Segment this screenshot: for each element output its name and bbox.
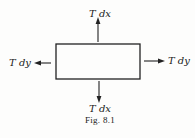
diagram-canvas: T dx T dx T dy T dy Fig. 8.1	[0, 0, 195, 138]
arrow-up-icon	[96, 17, 101, 42]
arrow-down-icon	[97, 81, 102, 103]
force-label-right: T dy	[168, 55, 190, 66]
figure-caption: Fig. 8.1	[85, 115, 115, 125]
figure-8-1: T dx T dx T dy T dy Fig. 8.1	[0, 0, 195, 138]
arrow-left-icon	[34, 61, 51, 66]
force-label-top: T dx	[89, 8, 111, 19]
arrow-right-icon	[144, 59, 165, 64]
force-label-left: T dy	[9, 57, 31, 68]
element-rectangle	[56, 44, 140, 79]
force-label-bottom: T dx	[89, 103, 111, 114]
